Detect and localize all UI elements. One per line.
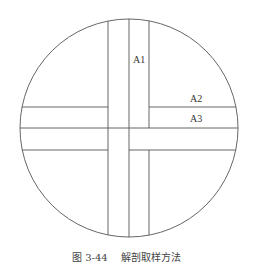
dissection-diagram <box>0 0 253 245</box>
label-a3: A3 <box>190 113 202 124</box>
label-a2: A2 <box>190 93 202 104</box>
label-a1: A1 <box>133 54 145 65</box>
caption-number: 图 3-44 <box>72 252 108 263</box>
figure-caption: 图 3-44 解剖取样方法 <box>0 249 253 264</box>
caption-title: 解剖取样方法 <box>121 252 181 263</box>
